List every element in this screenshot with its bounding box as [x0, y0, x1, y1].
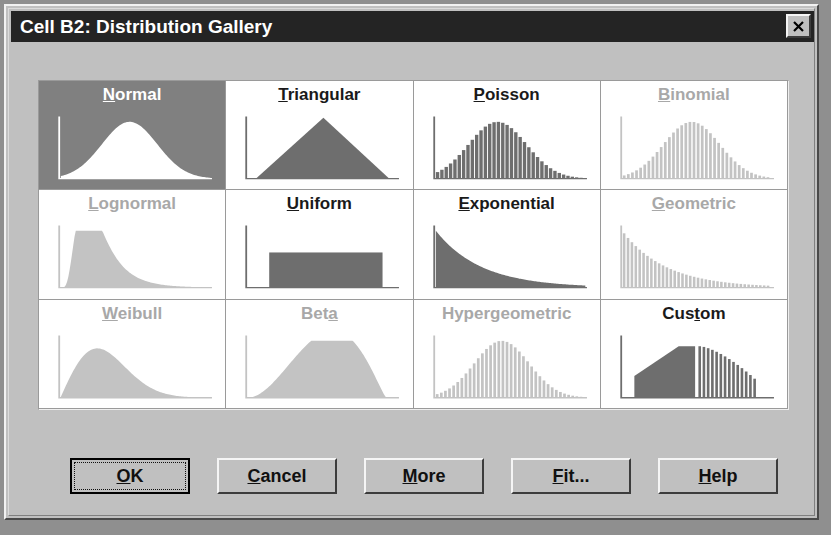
distribution-cell-beta[interactable]: Beta	[225, 299, 413, 409]
distribution-cell-weibull[interactable]: Weibull	[38, 299, 226, 409]
distribution-label: Exponential	[414, 194, 600, 214]
ok-button[interactable]: OK	[70, 458, 190, 494]
dialog-button-row: OKCancelMoreFit...Help	[6, 458, 821, 498]
distribution-label: Lognormal	[39, 194, 225, 214]
button-label: OK	[116, 466, 143, 487]
distribution-cell-normal[interactable]: Normal	[38, 80, 226, 190]
distribution-thumbnail-normal	[51, 111, 215, 181]
distribution-thumbnail-poisson	[426, 111, 590, 181]
distribution-cell-lognormal[interactable]: Lognormal	[38, 189, 226, 299]
distribution-thumbnail-lognormal	[51, 220, 215, 290]
distribution-grid: NormalTriangularPoissonBinomialLognormal…	[38, 80, 789, 410]
distribution-thumbnail-geometric	[613, 220, 777, 290]
distribution-label: Weibull	[39, 304, 225, 324]
distribution-thumbnail-beta	[238, 330, 402, 400]
distribution-cell-hypergeometric[interactable]: Hypergeometric	[413, 299, 601, 409]
dialog-title: Cell B2: Distribution Gallery	[11, 16, 272, 38]
help-button[interactable]: Help	[658, 458, 778, 494]
distribution-label: Hypergeometric	[414, 304, 600, 324]
distribution-thumbnail-custom	[613, 330, 777, 400]
distribution-label: Uniform	[226, 194, 412, 214]
distribution-cell-binomial[interactable]: Binomial	[600, 80, 788, 190]
distribution-label: Normal	[39, 85, 225, 105]
distribution-label: Custom	[601, 304, 787, 324]
close-icon	[792, 20, 805, 33]
fit-button[interactable]: Fit...	[511, 458, 631, 494]
distribution-gallery-dialog: Cell B2: Distribution Gallery NormalTria…	[4, 4, 819, 520]
distribution-label: Triangular	[226, 85, 412, 105]
distribution-thumbnail-triangular	[238, 111, 402, 181]
distribution-cell-poisson[interactable]: Poisson	[413, 80, 601, 190]
focus-ring: OK	[74, 462, 186, 490]
distribution-cell-uniform[interactable]: Uniform	[225, 189, 413, 299]
button-label: Help	[698, 466, 737, 487]
button-label: Cancel	[247, 466, 306, 487]
distribution-label: Beta	[226, 304, 412, 324]
distribution-thumbnail-exponential	[426, 220, 590, 290]
distribution-label: Geometric	[601, 194, 787, 214]
title-bar: Cell B2: Distribution Gallery	[11, 11, 814, 42]
distribution-thumbnail-uniform	[238, 220, 402, 290]
distribution-label: Poisson	[414, 85, 600, 105]
distribution-thumbnail-hypergeometric	[426, 330, 590, 400]
more-button[interactable]: More	[364, 458, 484, 494]
distribution-label: Binomial	[601, 85, 787, 105]
distribution-thumbnail-binomial	[613, 111, 777, 181]
distribution-cell-custom[interactable]: Custom	[600, 299, 788, 409]
distribution-cell-geometric[interactable]: Geometric	[600, 189, 788, 299]
distribution-cell-exponential[interactable]: Exponential	[413, 189, 601, 299]
distribution-thumbnail-weibull	[51, 330, 215, 400]
button-label: More	[402, 466, 445, 487]
cancel-button[interactable]: Cancel	[217, 458, 337, 494]
distribution-cell-triangular[interactable]: Triangular	[225, 80, 413, 190]
close-button[interactable]	[786, 14, 811, 38]
button-label: Fit...	[553, 466, 590, 487]
